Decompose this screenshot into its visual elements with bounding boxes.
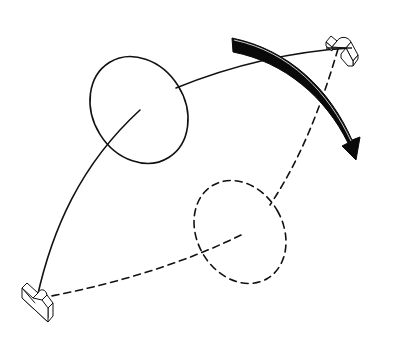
dashed-cord-upper [270, 49, 338, 205]
diagram-canvas [0, 0, 398, 345]
bracket-bottom-left-icon [22, 283, 53, 322]
solid-cord-lower [37, 110, 140, 298]
bracket-top-right-icon [326, 36, 358, 66]
diagram-svg [0, 0, 398, 345]
dashed-loop [176, 164, 304, 301]
